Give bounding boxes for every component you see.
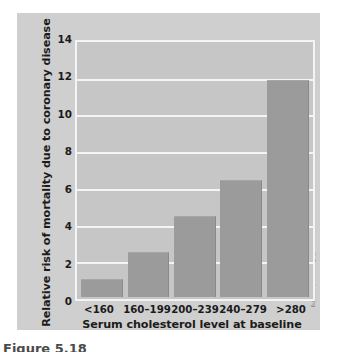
y-axis-tick-label: 0	[55, 296, 72, 306]
bar[interactable]	[220, 180, 262, 297]
x-axis-tick-label: 160–199	[123, 304, 171, 315]
y-axis-tick-labels: 14121086420	[55, 39, 72, 301]
y-axis-tick-label: 8	[55, 146, 72, 156]
y-axis-tick-label: 10	[55, 109, 72, 119]
x-axis-tick-labels: <160160–199200–239240–279>280	[75, 304, 315, 318]
y-axis-tick-label: 14	[55, 34, 72, 44]
bar[interactable]	[267, 80, 309, 297]
bar-series	[79, 44, 311, 297]
bar-slot	[267, 44, 309, 297]
bar-slot	[81, 44, 123, 297]
plot-area	[75, 40, 315, 301]
x-axis-tick-label: <160	[75, 304, 123, 315]
figure-caption: Figure 5.18	[3, 341, 87, 352]
y-axis-tick-label: 4	[55, 221, 72, 231]
y-axis-tick-label: 6	[55, 184, 72, 194]
x-axis-tick-label: 240–279	[219, 304, 267, 315]
bar[interactable]	[128, 252, 170, 297]
x-axis-title: Serum cholesterol level at baseline	[57, 318, 327, 331]
y-axis-title: Relative risk of mortality due to corona…	[38, 39, 54, 305]
y-axis-tick-label: 12	[55, 71, 72, 81]
bar-slot	[220, 44, 262, 297]
y-axis-tick-label: 2	[55, 259, 72, 269]
figure-panel: © Cengage Learning Relative risk of mort…	[17, 13, 320, 330]
bar-slot	[128, 44, 170, 297]
bar[interactable]	[174, 216, 216, 297]
x-axis-tick-label: 200–239	[171, 304, 219, 315]
x-axis-tick-label: >280	[267, 304, 315, 315]
y-axis-title-text: Relative risk of mortality due to corona…	[40, 18, 53, 326]
bar[interactable]	[81, 279, 123, 297]
bar-slot	[174, 44, 216, 297]
